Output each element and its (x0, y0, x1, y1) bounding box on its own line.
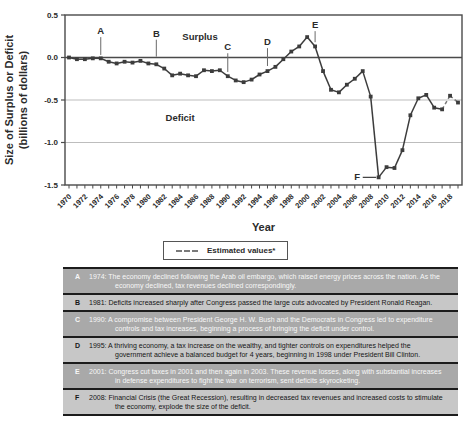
data-point (432, 106, 436, 110)
series-segment (315, 46, 323, 71)
data-point (456, 101, 460, 105)
data-point (226, 74, 230, 78)
data-point (131, 61, 135, 65)
data-point (281, 57, 285, 61)
legend: Estimated values* (163, 241, 288, 260)
data-point (202, 68, 206, 72)
table-row-f: F 2008: Financial Crisis (the Great Rece… (63, 388, 458, 414)
data-point (297, 45, 301, 49)
row-text: 1974: The economy declined following the… (89, 272, 448, 290)
data-point (186, 73, 190, 77)
row-text: 2008: Financial Crisis (the Great Recess… (89, 393, 448, 411)
x-tick-label: 1978 (119, 192, 137, 210)
dashed-line-icon (176, 250, 198, 252)
row-text: 1995: A thriving economy, a tax increase… (89, 341, 448, 359)
data-point (448, 94, 452, 98)
x-tick-label: 1972 (71, 192, 89, 210)
data-point (218, 68, 222, 72)
data-point (345, 83, 349, 87)
data-point (154, 62, 158, 66)
surplus-deficit-chart: 0.50.0-0.5-1.0-1.51970197219741976197819… (0, 0, 471, 236)
series-segment (426, 95, 434, 108)
data-point (408, 113, 412, 117)
data-point (75, 57, 79, 61)
x-tick-label: 2010 (373, 192, 391, 210)
data-point (266, 69, 270, 73)
y-tick-label: 0.0 (47, 53, 59, 62)
data-point (250, 78, 254, 82)
series-segment (442, 96, 450, 110)
x-tick-label: 1980 (135, 192, 153, 210)
x-tick-label: 2006 (341, 192, 359, 210)
x-tick-label: 1990 (214, 192, 232, 210)
data-point (361, 69, 365, 73)
data-point (146, 62, 150, 66)
table-row-d: D 1995: A thriving economy, a tax increa… (63, 336, 458, 362)
series-segment (323, 71, 331, 90)
x-tick-label: 1994 (246, 191, 265, 210)
annotation-letter: E (312, 19, 318, 30)
data-point (258, 73, 262, 77)
series-segment (371, 97, 379, 178)
x-tick-label: 1988 (198, 192, 216, 210)
y-tick-label: -1.5 (44, 181, 58, 190)
table-row-a: A 1974: The economy declined following t… (63, 269, 458, 293)
region-label: Deficit (166, 112, 196, 123)
table-row-c: C 1990: A compromise between President G… (63, 310, 458, 336)
data-point (305, 35, 309, 39)
x-tick-label: 2018 (436, 192, 454, 210)
x-tick-label: 2004 (325, 191, 344, 210)
row-letter: E (75, 367, 89, 385)
annotation-letter: C (224, 41, 231, 52)
data-point (337, 90, 341, 94)
data-point (99, 56, 103, 60)
x-tick-label: 2014 (405, 191, 424, 210)
data-point (170, 73, 174, 77)
y-axis-title-line2: (billions of dollars) (17, 50, 29, 149)
x-tick-label: 1996 (262, 192, 280, 210)
x-axis-title: Year (252, 221, 276, 233)
data-point (274, 65, 278, 69)
x-tick-label: 2012 (389, 192, 407, 210)
data-point (91, 56, 95, 60)
x-tick-label: 1986 (182, 192, 200, 210)
annotation-letter: B (153, 28, 160, 39)
x-tick-label: 1982 (151, 192, 169, 210)
data-point (440, 107, 444, 111)
data-point (162, 67, 166, 71)
x-tick-label: 1970 (55, 192, 73, 210)
x-tick-label: 1984 (166, 191, 185, 210)
x-tick-label: 2008 (357, 192, 375, 210)
annotation-table: A 1974: The economy declined following t… (63, 267, 458, 416)
x-tick-label: 1998 (278, 192, 296, 210)
data-point (234, 79, 238, 83)
table-row-b: B 1981: Deficits increased sharply after… (63, 293, 458, 310)
series-segment (410, 98, 418, 115)
data-point (123, 60, 127, 64)
x-tick-label: 2016 (420, 192, 438, 210)
row-letter: A (75, 272, 89, 290)
data-point (385, 165, 389, 169)
figure-surplus-deficit: 0.50.0-0.5-1.0-1.51970197219741976197819… (0, 0, 471, 446)
data-point (424, 93, 428, 97)
data-point (329, 88, 333, 92)
data-point (178, 72, 182, 76)
data-point (369, 95, 373, 99)
region-label: Surplus (182, 31, 217, 42)
data-point (139, 59, 143, 63)
legend-label: Estimated values* (207, 246, 275, 255)
data-point (83, 57, 87, 61)
data-point (67, 56, 71, 60)
series-segment (363, 71, 371, 97)
y-tick-label: 0.5 (47, 11, 59, 20)
x-tick-label: 1992 (230, 192, 248, 210)
data-point (321, 69, 325, 73)
x-tick-label: 2002 (309, 192, 327, 210)
row-letter: F (75, 393, 89, 411)
data-point (416, 96, 420, 100)
y-tick-label: -1.0 (44, 138, 58, 147)
row-text: 2001: Congress cut taxes in 2001 and the… (89, 367, 448, 385)
data-point (401, 148, 405, 152)
annotation-letter: A (97, 25, 104, 36)
data-point (289, 50, 293, 54)
